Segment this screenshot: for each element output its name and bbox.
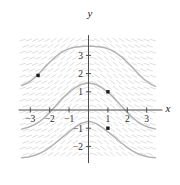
x-tick-label: 2	[125, 114, 130, 124]
slope-field-figure: −3−2−1123321−1−2 x y	[0, 0, 180, 185]
y-axis-label: y	[87, 7, 93, 19]
x-tick-label: −3	[25, 114, 35, 124]
x-tick-label: 1	[106, 114, 111, 124]
y-tick-label: 2	[78, 69, 83, 79]
data-point	[106, 127, 109, 130]
y-tick-label: 3	[78, 51, 83, 61]
y-tick-label: 1	[78, 87, 83, 97]
y-tick-label: −1	[73, 124, 83, 134]
x-tick-label: −1	[64, 114, 74, 124]
x-tick-label: −2	[45, 114, 55, 124]
x-axis-label: x	[165, 102, 171, 114]
axes	[19, 35, 163, 163]
data-point	[106, 90, 109, 93]
x-tick-label: 3	[144, 114, 149, 124]
data-point	[36, 74, 39, 77]
slope-field-chart: −3−2−1123321−1−2 x y	[0, 0, 180, 185]
y-tick-label: −2	[73, 142, 83, 152]
